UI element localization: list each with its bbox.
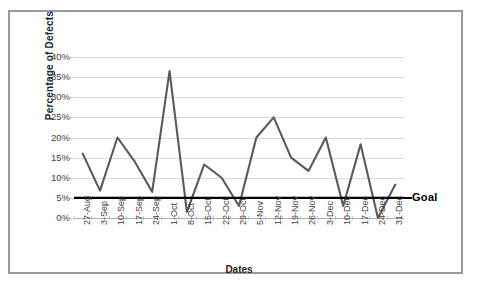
x-axis-tick-mark (282, 216, 283, 220)
y-axis-tick-mark (70, 198, 73, 199)
x-axis-tick-label: 19-Nov (291, 196, 300, 227)
x-axis-tick-label: 31-Dec (395, 196, 404, 227)
x-axis-tick-label: 8-Oct (187, 203, 196, 227)
x-axis-tick-mark (91, 216, 92, 220)
x-axis-tick-label: 15-Oct (204, 198, 213, 227)
y-axis-tick-label: 0% (14, 213, 70, 223)
x-axis-tick-mark (387, 216, 388, 220)
x-axis-tick-mark (335, 216, 336, 220)
x-axis-tick-mark (300, 216, 301, 220)
y-axis-tick-mark (70, 97, 73, 98)
x-axis-tick-mark (109, 216, 110, 220)
x-axis-tick-mark (352, 216, 353, 220)
goal-reference-line (74, 57, 414, 218)
chart-frame: Percentage of Defects 40%35%30%25%20%15%… (8, 10, 463, 274)
x-axis-title: Dates (74, 264, 404, 275)
y-axis-tick-mark (70, 117, 73, 118)
x-axis-tick-label: 26-Nov (308, 196, 317, 227)
y-axis-tick-mark (70, 138, 73, 139)
x-axis-tick-mark (178, 216, 179, 220)
x-axis-tick-mark (196, 216, 197, 220)
x-axis-tick-mark (317, 216, 318, 220)
y-axis-ticks: 40%35%30%25%20%15%10%5%0% (10, 57, 70, 218)
y-axis-tick-label: 20% (14, 133, 70, 143)
x-axis-tick-label: 27-Aug (83, 196, 92, 227)
y-axis-tick-mark (70, 77, 73, 78)
x-axis-tick-label: 17-Dec (361, 196, 370, 227)
x-axis-tick-label: 3-Dec (326, 201, 335, 227)
x-axis-tick-label: 24-Dec (378, 196, 387, 227)
x-axis-tick-label: 24-Sep (152, 196, 161, 227)
x-axis-tick-label: 22-Oct (222, 198, 231, 227)
y-axis-tick-mark (70, 218, 73, 219)
x-axis-tick-label: 3-Sep (100, 201, 109, 227)
x-axis-tick-mark (74, 216, 75, 220)
y-axis-tick-label: 30% (14, 92, 70, 102)
y-axis-tick-label: 25% (14, 112, 70, 122)
goal-label: Goal (412, 191, 438, 203)
x-axis-tick-mark (126, 216, 127, 220)
x-axis-tick-mark (265, 216, 266, 220)
y-axis-tick-label: 5% (14, 193, 70, 203)
x-axis-tick-mark (143, 216, 144, 220)
x-axis-tick-label: 10-Sep (117, 196, 126, 227)
x-axis-tick-label: 5-Nov (256, 201, 265, 227)
x-axis-tick-mark (369, 216, 370, 220)
goal-leader-line (404, 197, 412, 199)
y-axis-tick-mark (70, 57, 73, 58)
y-axis-tick-label: 15% (14, 153, 70, 163)
x-axis-tick-label: 29-Oct (239, 198, 248, 227)
plot-area (74, 57, 404, 218)
y-axis-tick-mark (70, 178, 73, 179)
x-axis-tick-label: 1-Oct (170, 203, 179, 227)
y-axis-tick-label: 10% (14, 173, 70, 183)
x-axis-tick-label: 17-Sep (135, 196, 144, 227)
y-axis-tick-label: 40% (14, 52, 70, 62)
x-axis-tick-label: 12-Nov (274, 196, 283, 227)
y-axis-tick-mark (70, 158, 73, 159)
y-axis-tick-label: 35% (14, 72, 70, 82)
x-axis-tick-mark (248, 216, 249, 220)
x-axis-tick-mark (213, 216, 214, 220)
x-axis-tick-mark (161, 216, 162, 220)
x-axis-tick-mark (230, 216, 231, 220)
x-axis-tick-label: 10-Dec (343, 196, 352, 227)
